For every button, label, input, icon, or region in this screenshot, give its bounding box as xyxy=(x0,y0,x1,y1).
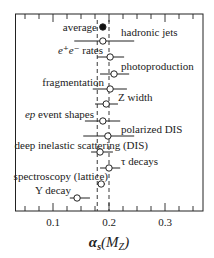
open-marker xyxy=(107,86,113,92)
point-label: ep event shapes xyxy=(25,108,94,120)
open-marker xyxy=(100,118,106,124)
point-label: spectroscopy (lattice) xyxy=(14,170,109,183)
data-point-fragmentation: fragmentation xyxy=(42,76,127,92)
data-points: averagehadronic jetse⁺e⁻ ratesphotoprodu… xyxy=(14,21,195,201)
data-point-polarized-dis: polarized DIS xyxy=(83,123,182,139)
x-tick-label: 0.2 xyxy=(102,216,116,228)
data-point-ep-event-shapes: ep event shapes xyxy=(25,108,120,124)
point-label: deep inelastic scattering (DIS) xyxy=(15,139,149,152)
data-point-deep-inelastic-scattering-dis: deep inelastic scattering (DIS) xyxy=(15,139,149,155)
x-axis-label: αs(MZ) xyxy=(89,234,129,252)
x-tick-labels: 0.10.20.3 xyxy=(46,216,172,228)
point-label: Z width xyxy=(118,91,153,103)
point-label: average xyxy=(63,21,97,33)
data-point-decay: Υ decay xyxy=(35,184,90,201)
open-marker xyxy=(107,54,113,60)
point-label: fragmentation xyxy=(42,76,104,88)
point-label: polarized DIS xyxy=(121,123,182,135)
x-tick-label: 0.1 xyxy=(46,216,60,228)
data-point-e-e-rates: e⁺e⁻ rates xyxy=(58,44,124,60)
alpha-s-summary-chart: averagehadronic jetse⁺e⁻ ratesphotoprodu… xyxy=(0,0,214,258)
open-marker xyxy=(111,71,117,77)
point-label: Υ decay xyxy=(35,184,71,196)
point-label: hadronic jets xyxy=(121,26,178,38)
point-label: photoproduction xyxy=(121,60,194,72)
data-point-z-width: Z width xyxy=(95,91,153,107)
point-label: τ decays xyxy=(121,155,158,167)
filled-marker xyxy=(100,24,106,30)
open-marker xyxy=(74,195,80,201)
data-point-photoproduction: photoproduction xyxy=(100,60,194,77)
open-marker xyxy=(103,101,109,107)
x-tick-label: 0.3 xyxy=(158,216,172,228)
data-point-average: average xyxy=(63,21,106,33)
point-label: e⁺e⁻ rates xyxy=(58,44,103,56)
